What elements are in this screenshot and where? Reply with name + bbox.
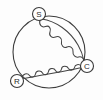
start-winding-loops bbox=[40, 20, 84, 62]
motor-diagram-canvas: S C R bbox=[0, 0, 103, 100]
terminal-run-label: R bbox=[14, 77, 20, 86]
start-winding-outer-arc bbox=[42, 19, 85, 61]
run-winding-loops bbox=[22, 65, 82, 79]
terminal-common-label: C bbox=[84, 62, 90, 71]
start-winding-coil bbox=[40, 19, 84, 62]
motor-winding-diagram: S C R bbox=[0, 0, 103, 100]
terminal-start-label: S bbox=[36, 10, 41, 19]
terminal-common[interactable]: C bbox=[81, 60, 94, 73]
terminal-start[interactable]: S bbox=[33, 8, 46, 21]
run-winding-coil bbox=[22, 65, 83, 79]
terminal-run[interactable]: R bbox=[11, 75, 24, 88]
